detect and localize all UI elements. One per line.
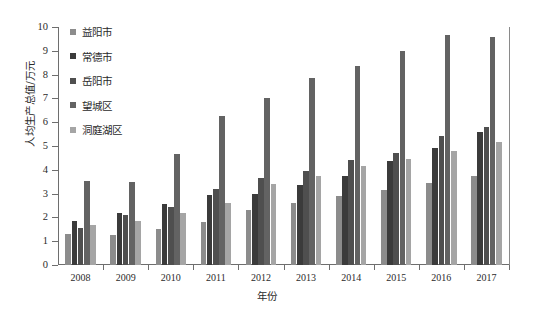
plot-right-border (509, 27, 510, 265)
y-tick-label: 3 (22, 189, 48, 199)
bar (201, 222, 207, 265)
x-tick (374, 265, 375, 270)
legend-swatch-icon (70, 102, 76, 108)
bar (207, 195, 213, 265)
legend-swatch-icon (70, 127, 76, 133)
bar (291, 203, 297, 265)
legend-label: 望城区 (82, 98, 112, 113)
bar (258, 178, 264, 265)
bar (309, 78, 315, 265)
bar (168, 207, 174, 265)
bar (477, 132, 483, 265)
x-axis-title: 年份 (0, 288, 533, 303)
bar (355, 66, 361, 265)
bar (156, 229, 162, 265)
bar (484, 127, 490, 265)
legend-swatch-icon (70, 78, 76, 84)
bar (400, 51, 406, 265)
legend-swatch-icon (70, 29, 76, 35)
y-tick (52, 98, 58, 99)
y-tick (52, 265, 58, 266)
bar (84, 181, 90, 265)
y-axis-title: 人均生产总值/万元 (22, 29, 37, 179)
legend-label: 益阳市 (82, 24, 112, 39)
bar (65, 234, 71, 265)
x-tick (329, 265, 330, 270)
y-tick (52, 217, 58, 218)
bar (336, 196, 342, 265)
bar (213, 189, 219, 265)
y-tick (52, 241, 58, 242)
bar (361, 166, 367, 265)
x-tick (464, 265, 465, 270)
y-tick-label: 2 (22, 212, 48, 222)
bar (445, 35, 451, 265)
legend: 益阳市常德市岳阳市望城区洞庭湖区 (70, 24, 122, 137)
bar (90, 225, 96, 265)
y-tick-label: 1 (22, 236, 48, 246)
legend-item-4: 望城区 (70, 98, 122, 113)
bar (297, 185, 303, 265)
bar (225, 203, 231, 265)
bar (78, 228, 84, 265)
y-tick (52, 75, 58, 76)
bar (393, 153, 399, 265)
bar (246, 210, 252, 265)
x-tick (419, 265, 420, 270)
legend-item-1: 益阳市 (70, 24, 122, 39)
bar (117, 213, 123, 265)
bar (406, 159, 412, 265)
bar (135, 221, 141, 265)
bar (451, 151, 457, 265)
bar (271, 184, 277, 265)
bar (387, 161, 393, 265)
y-tick (52, 170, 58, 171)
legend-swatch-icon (70, 53, 76, 59)
x-tick (193, 265, 194, 270)
bar (174, 154, 180, 265)
bar (129, 182, 135, 265)
x-tick (148, 265, 149, 270)
bar (180, 213, 186, 265)
legend-item-2: 常德市 (70, 49, 122, 64)
legend-item-5: 洞庭湖区 (70, 122, 122, 137)
x-tick (509, 265, 510, 270)
y-tick (52, 146, 58, 147)
chart-container: 012345678910 200820092010201120122013201… (0, 0, 533, 312)
bar (426, 183, 432, 265)
legend-item-3: 岳阳市 (70, 73, 122, 88)
x-tick (238, 265, 239, 270)
bar (110, 235, 116, 265)
x-tick-label: 2017 (456, 272, 516, 283)
bar (316, 176, 322, 265)
bar (252, 194, 258, 265)
bar (432, 148, 438, 265)
bar (342, 176, 348, 265)
legend-label: 洞庭湖区 (82, 122, 122, 137)
y-tick (52, 194, 58, 195)
bar (471, 176, 477, 265)
bar (219, 116, 225, 265)
legend-label: 常德市 (82, 49, 112, 64)
bar (381, 190, 387, 265)
bar (162, 204, 168, 265)
bar (496, 142, 502, 265)
y-tick (52, 51, 58, 52)
x-tick (103, 265, 104, 270)
y-tick-label: 0 (22, 260, 48, 270)
bar (490, 37, 496, 265)
bar (303, 171, 309, 265)
bar (123, 215, 129, 265)
bar (264, 98, 270, 265)
legend-label: 岳阳市 (82, 73, 112, 88)
y-tick (52, 27, 58, 28)
bar (348, 160, 354, 265)
bar (439, 136, 445, 265)
x-tick (284, 265, 285, 270)
y-tick (52, 122, 58, 123)
bar (72, 221, 78, 265)
